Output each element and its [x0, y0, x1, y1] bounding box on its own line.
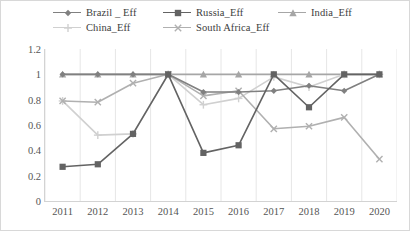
x-axis: 2011201220132014201520162017201820192020	[45, 204, 397, 222]
y-axis-line	[44, 49, 45, 201]
y-axis: 1.210.80.60.40.20	[1, 1, 41, 231]
data-point-marker	[271, 88, 277, 94]
x-axis-line	[44, 201, 397, 202]
legend-item-russia[interactable]: Russia_Eff	[163, 5, 278, 20]
x-tick-label: 2016	[228, 206, 249, 217]
x-tick-label: 2011	[52, 206, 73, 217]
legend-item-south-africa[interactable]: South Africa_Eff	[163, 20, 313, 35]
data-point-marker	[95, 161, 101, 167]
x-tick-label: 2018	[299, 206, 320, 217]
x-tick-label: 2020	[369, 206, 390, 217]
plus-marker-icon	[53, 22, 81, 34]
data-point-marker	[341, 88, 347, 94]
x-tick-label: 2012	[87, 206, 108, 217]
y-tick-label: 0.2	[1, 170, 41, 181]
y-tick-label: 1	[1, 69, 41, 80]
series-canvas	[45, 49, 397, 201]
y-tick-label: 0.8	[1, 94, 41, 105]
data-point-marker	[60, 164, 66, 170]
x-tick-label: 2017	[263, 206, 284, 217]
data-point-marker	[306, 104, 312, 110]
legend-label-brazil: Brazil _ Eff	[86, 7, 137, 18]
legend-row-2: China_Eff South Africa_Eff	[1, 20, 410, 35]
legend-item-india[interactable]: India_Eff	[278, 5, 368, 20]
data-point-marker	[271, 71, 277, 77]
legend-label-china: China_Eff	[86, 22, 130, 33]
y-tick-label: 0.6	[1, 120, 41, 131]
data-point-marker	[165, 71, 171, 77]
legend-item-china[interactable]: China_Eff	[53, 20, 163, 35]
line-chart-figure: Brazil _ Eff Russia_Eff India_Eff	[0, 0, 410, 231]
legend-marker	[174, 24, 181, 31]
x-tick-label: 2019	[334, 206, 355, 217]
legend-label-india: India_Eff	[311, 7, 352, 18]
legend-label-south-africa: South Africa_Eff	[196, 22, 269, 33]
cross-marker-icon	[163, 22, 191, 34]
legend-row-1: Brazil _ Eff Russia_Eff India_Eff	[1, 5, 410, 20]
x-tick-label: 2015	[193, 206, 214, 217]
data-point-marker	[236, 142, 242, 148]
plot-area	[45, 49, 397, 201]
triangle-marker-icon	[278, 7, 306, 19]
y-tick-label: 0	[1, 196, 41, 207]
data-point-marker	[200, 150, 206, 156]
data-point-marker	[130, 131, 136, 137]
legend-item-brazil[interactable]: Brazil _ Eff	[53, 5, 163, 20]
data-point-marker	[306, 83, 312, 89]
data-point-marker	[235, 95, 243, 103]
legend-marker	[174, 9, 181, 16]
data-point-marker	[376, 156, 382, 162]
x-tick-label: 2014	[158, 206, 179, 217]
legend-marker	[64, 24, 71, 31]
y-tick-label: 0.4	[1, 145, 41, 156]
legend-marker	[289, 9, 296, 16]
data-point-marker	[376, 71, 382, 77]
data-point-marker	[341, 71, 347, 77]
diamond-marker-icon	[53, 7, 81, 19]
chart-legend: Brazil _ Eff Russia_Eff India_Eff	[1, 5, 410, 35]
square-marker-icon	[163, 7, 191, 19]
y-tick-label: 1.2	[1, 44, 41, 55]
legend-label-russia: Russia_Eff	[196, 7, 243, 18]
x-tick-label: 2013	[123, 206, 144, 217]
legend-marker	[64, 9, 71, 16]
